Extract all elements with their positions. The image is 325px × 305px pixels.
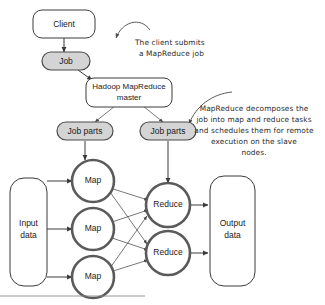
master-note-line-4: execution on the slave: [211, 137, 297, 146]
output-data-label-line2: data: [224, 230, 241, 240]
master-note-line-1: MapReduce decomposes the: [200, 104, 309, 113]
client-label: Client: [53, 19, 75, 29]
master-note-line-3: and schedules them for remote: [194, 126, 314, 135]
node-map-2[interactable]: Map: [72, 208, 114, 250]
job-parts-right-label: Job parts: [151, 126, 186, 136]
node-map-3[interactable]: Map: [72, 256, 114, 298]
master-note-line-5: nodes.: [241, 148, 266, 157]
annotation-client-note: The client submits a MapReduce job: [134, 38, 205, 58]
edge-map1-to-reduce1: [110, 188, 148, 200]
job-label: Job: [59, 56, 73, 66]
node-map-1[interactable]: Map: [72, 160, 114, 202]
diagram-canvas: Client Hadoop MapReduce master Input dat…: [0, 0, 325, 305]
reduce-1-label: Reduce: [153, 199, 183, 209]
callout-curve-client-note: [116, 22, 150, 38]
annotation-master-note: MapReduce decomposes the job into map an…: [194, 104, 314, 157]
input-data-label-line1: Input: [19, 218, 39, 228]
client-note-line-1: The client submits: [134, 38, 205, 47]
map-3-label: Map: [85, 271, 102, 281]
master-label-line1: Hadoop MapReduce: [92, 82, 166, 91]
node-reduce-2[interactable]: Reduce: [146, 231, 190, 275]
map-2-label: Map: [85, 223, 102, 233]
node-client[interactable]: Client: [33, 10, 95, 38]
output-data-label-line1: Output: [220, 218, 246, 228]
node-job-parts-right[interactable]: Job parts: [140, 122, 196, 140]
mapreduce-diagram: Client Hadoop MapReduce master Input dat…: [0, 0, 325, 305]
edge-master-to-jobparts-left: [95, 106, 115, 122]
client-note-line-2: a MapReduce job: [139, 49, 204, 58]
job-parts-left-label: Job parts: [68, 126, 103, 136]
master-label-line2: master: [117, 93, 142, 102]
master-note-line-2: job into map and reduce tasks: [195, 115, 311, 124]
node-job-parts-left[interactable]: Job parts: [57, 122, 113, 140]
node-master[interactable]: Hadoop MapReduce master: [86, 78, 172, 107]
edge-master-to-jobparts-right: [143, 106, 163, 122]
node-input-data[interactable]: Input data: [10, 178, 47, 286]
edge-map3-to-reduce2: [110, 260, 148, 272]
input-data-label-line2: data: [20, 230, 37, 240]
edge-map3-to-reduce1: [110, 216, 147, 268]
node-job[interactable]: Job: [42, 52, 90, 70]
edge-map1-to-reduce2: [110, 192, 147, 244]
node-reduce-1[interactable]: Reduce: [146, 183, 190, 227]
reduce-2-label: Reduce: [153, 247, 183, 257]
map-1-label: Map: [85, 175, 102, 185]
node-output-data[interactable]: Output data: [210, 176, 255, 286]
edge-job-to-master: [78, 70, 92, 80]
